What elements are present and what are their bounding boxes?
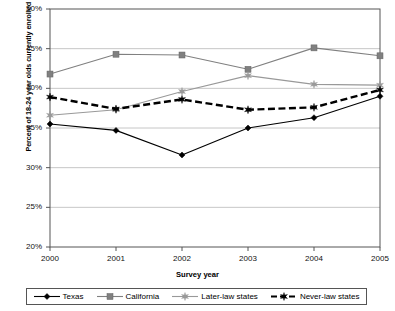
data-point-marker xyxy=(311,115,317,121)
line-chart: Percent of 18-24 year olds currently enr… xyxy=(0,0,395,311)
series-never-law-states xyxy=(47,86,384,114)
data-point-marker xyxy=(44,294,50,300)
legend-label: Never-law states xyxy=(300,292,360,301)
data-point-marker xyxy=(377,53,383,59)
y-tick-label: 30% xyxy=(12,163,42,172)
data-point-marker xyxy=(179,52,185,58)
x-tick-label: 2000 xyxy=(30,254,70,263)
legend-swatch-square-icon xyxy=(97,292,123,301)
x-axis-title: Survey year xyxy=(0,270,395,279)
series-later-law-states xyxy=(47,72,384,120)
data-point-marker xyxy=(107,294,113,300)
data-point-marker xyxy=(47,121,53,127)
x-tick-label: 2005 xyxy=(360,254,395,263)
data-point-marker xyxy=(179,152,185,158)
legend-label: Later-law states xyxy=(201,292,257,301)
legend-item-never-law-states[interactable]: Never-law states xyxy=(270,292,361,301)
series-california xyxy=(47,45,383,77)
x-tick-label: 2004 xyxy=(294,254,334,263)
data-point-marker xyxy=(245,125,251,131)
legend-label: California xyxy=(126,292,160,301)
legend-item-california[interactable]: California xyxy=(96,292,161,301)
legend-label: Texas xyxy=(63,292,84,301)
y-tick-label: 45% xyxy=(12,44,42,53)
legend-swatch-star-icon xyxy=(271,292,297,301)
legend-item-texas[interactable]: Texas xyxy=(33,292,85,301)
data-point-marker xyxy=(113,51,119,57)
data-point-marker xyxy=(311,45,317,51)
y-tick-label: 40% xyxy=(12,83,42,92)
plot-area xyxy=(0,0,395,311)
y-tick-label: 25% xyxy=(12,202,42,211)
legend-swatch-star-icon xyxy=(172,292,198,301)
x-tick-label: 2002 xyxy=(162,254,202,263)
legend-item-later-law-states[interactable]: Later-law states xyxy=(171,292,258,301)
y-tick-label: 20% xyxy=(12,242,42,251)
legend-swatch-diamond-icon xyxy=(34,292,60,301)
y-tick-label: 50% xyxy=(12,4,42,13)
chart-legend: TexasCaliforniaLater-law statesNever-law… xyxy=(26,288,367,305)
x-tick-label: 2001 xyxy=(96,254,136,263)
data-point-marker xyxy=(47,71,53,77)
x-tick-label: 2003 xyxy=(228,254,268,263)
y-tick-label: 35% xyxy=(12,123,42,132)
